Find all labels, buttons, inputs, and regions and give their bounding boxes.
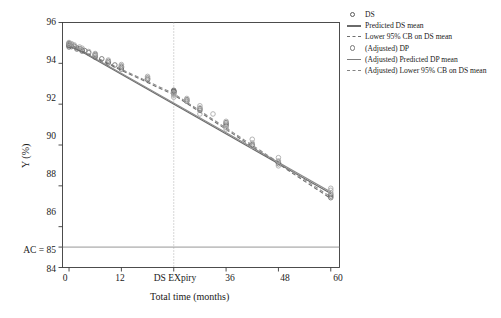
legend-item-predicted-ds-mean: Predicted DS mean — [346, 20, 498, 31]
legend-label-lower-cb-ds: Lower 95% CB on DS mean — [362, 32, 452, 41]
legend: DS Predicted DS mean Lower 95% CB on DS … — [346, 9, 498, 76]
chart-figure: Y (%) 96 94 92 90 88 86 AC = 85 84 0 12 … — [0, 0, 501, 318]
legend-marker-line-solid-light — [346, 54, 362, 65]
legend-marker-circle-dark — [346, 9, 362, 20]
legend-label-adjusted-predicted-dp-mean: (Adjusted) Predicted DP mean — [362, 55, 458, 64]
legend-item-adjusted-predicted-dp-mean: (Adjusted) Predicted DP mean — [346, 54, 498, 65]
legend-marker-circle-light — [346, 43, 362, 54]
legend-marker-line-solid-dark — [346, 20, 362, 31]
series-lines — [69, 44, 331, 199]
legend-label-ds: DS — [362, 10, 375, 19]
legend-item-adjusted-dp: (Adjusted) DP — [346, 43, 498, 54]
legend-item-ds: DS — [346, 9, 498, 20]
legend-label-predicted-ds-mean: Predicted DS mean — [362, 21, 424, 30]
legend-marker-line-dashed-dark — [346, 31, 362, 42]
legend-item-lower-cb-ds: Lower 95% CB on DS mean — [346, 31, 498, 42]
series-points — [67, 40, 333, 200]
legend-label-adjusted-dp: (Adjusted) DP — [362, 44, 409, 53]
legend-marker-line-dashed-light — [346, 65, 362, 76]
legend-item-adjusted-lower-cb: (Adjusted) Lower 95% CB on DS mean — [346, 65, 498, 76]
legend-label-adjusted-lower-cb: (Adjusted) Lower 95% CB on DS mean — [362, 66, 486, 75]
